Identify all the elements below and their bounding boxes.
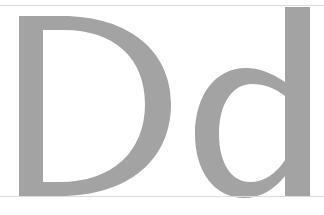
letters-graphic: Dd xyxy=(0,0,324,215)
bottom-rule xyxy=(0,196,324,197)
uppercase-d-glyph xyxy=(19,16,171,196)
lowercase-d-glyph xyxy=(195,7,310,198)
letter-card: Dd xyxy=(0,0,324,215)
